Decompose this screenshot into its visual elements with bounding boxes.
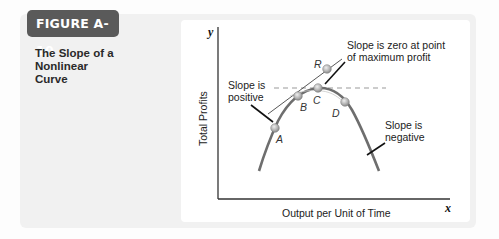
zero-slope-note-line1: Slope is zero at point bbox=[347, 39, 445, 51]
point-d-label: D bbox=[332, 107, 340, 119]
x-axis-label: Output per Unit of Time bbox=[282, 207, 391, 219]
x-axis-symbol: x bbox=[444, 201, 451, 215]
y-axis-label: Total Profits bbox=[197, 91, 209, 146]
negative-slope-note-line2: negative bbox=[385, 131, 425, 143]
point-d-marker bbox=[341, 98, 350, 107]
chart-svg: y x Total Profits Output per Unit of Tim… bbox=[0, 0, 499, 239]
point-c-marker bbox=[314, 84, 323, 93]
point-c-label: C bbox=[313, 94, 321, 106]
negative-slope-note-line1: Slope is bbox=[385, 119, 422, 131]
point-a-label: A bbox=[275, 133, 283, 145]
zero-slope-note-line2: of maximum profit bbox=[347, 51, 431, 63]
positive-slope-note-line1: Slope is bbox=[228, 79, 265, 91]
point-b-label: B bbox=[300, 101, 307, 113]
point-b-marker bbox=[294, 92, 303, 101]
positive-slope-arrow bbox=[251, 105, 273, 122]
positive-slope-note-line2: positive bbox=[228, 91, 264, 103]
point-r-label: R bbox=[314, 58, 322, 70]
point-a-marker bbox=[271, 124, 280, 133]
point-r-marker bbox=[323, 65, 332, 74]
y-axis-symbol: y bbox=[206, 25, 214, 39]
